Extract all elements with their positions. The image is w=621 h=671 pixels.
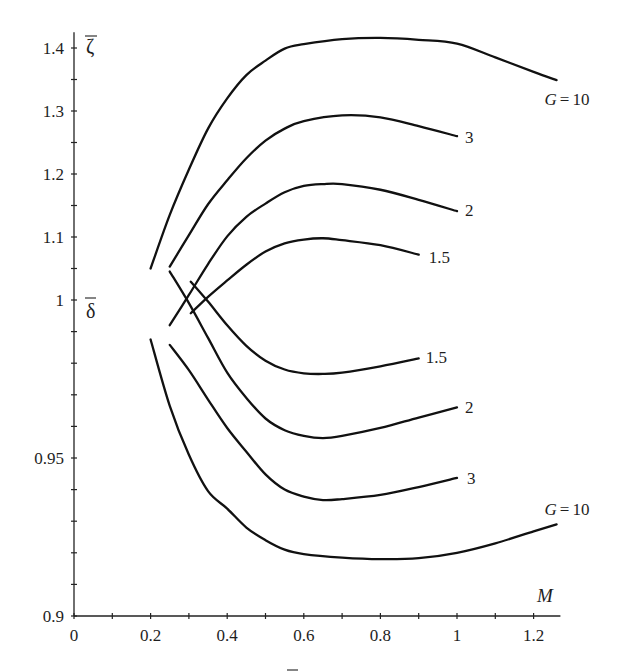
x-tick-label: 0.2 bbox=[140, 626, 161, 645]
y-zeta-tick-label: 1.4 bbox=[43, 39, 65, 58]
chart-figure: 00.20.40.60.811.21.11.21.31.410.950.9 G=… bbox=[0, 0, 621, 671]
label-value: 1.5 bbox=[429, 248, 450, 267]
curves bbox=[151, 38, 557, 559]
curve-delta-G3 bbox=[170, 345, 457, 500]
curve-label-zeta-G1.5: 1.5 bbox=[429, 248, 450, 267]
label-value: 3 bbox=[465, 128, 474, 147]
curve-zeta-G3 bbox=[170, 115, 457, 266]
y-delta-tick-label: 0.9 bbox=[43, 607, 64, 626]
label-value: 2 bbox=[465, 398, 474, 417]
label-value: 2 bbox=[465, 201, 474, 220]
x-tick-label: 0.6 bbox=[293, 626, 314, 645]
curve-label-zeta-G3: 3 bbox=[465, 128, 474, 147]
y-delta-tick-label: 0.95 bbox=[34, 449, 64, 468]
curve-label-delta-G1.5: 1.5 bbox=[426, 348, 447, 367]
curve-delta-G1.5 bbox=[191, 282, 419, 374]
x-tick-label: 1.2 bbox=[523, 626, 544, 645]
curve-zeta-G1.5 bbox=[191, 238, 419, 313]
curve-label-delta-G2: 2 bbox=[465, 398, 474, 417]
y-zeta-tick-label: 1.1 bbox=[43, 228, 64, 247]
label-value: 3 bbox=[467, 469, 476, 488]
x-axis-title: M bbox=[536, 585, 554, 606]
label-variable: G bbox=[545, 500, 557, 519]
curve-delta-G2 bbox=[170, 272, 457, 439]
curve-label-zeta-G2: 2 bbox=[465, 201, 474, 220]
curve-label-zeta-G10: G=10 bbox=[545, 90, 590, 109]
x-tick-label: 0 bbox=[70, 626, 79, 645]
y-axis-title-delta: δ bbox=[86, 300, 95, 322]
curve-labels: G=10321.51.523G=10 bbox=[426, 90, 590, 519]
curve-label-delta-G10: G=10 bbox=[545, 500, 590, 519]
label-relation: = bbox=[560, 500, 570, 519]
curve-zeta-G10 bbox=[151, 38, 557, 269]
label-value: 1.5 bbox=[426, 348, 447, 367]
x-tick-label: 0.8 bbox=[370, 626, 391, 645]
axis-titles: M ζ δ bbox=[85, 35, 554, 606]
axes bbox=[74, 32, 560, 616]
y-zeta-tick-label: 1.3 bbox=[43, 102, 64, 121]
curve-label-delta-G3: 3 bbox=[467, 469, 476, 488]
y-axis-title-zeta: ζ bbox=[86, 35, 94, 58]
label-variable: G bbox=[545, 90, 557, 109]
y-zeta-tick-label: 1.2 bbox=[43, 165, 64, 184]
line-chart: 00.20.40.60.811.21.11.21.31.410.950.9 G=… bbox=[0, 0, 621, 671]
y-delta-tick-label: 1 bbox=[56, 291, 65, 310]
label-value: 10 bbox=[572, 500, 589, 519]
label-relation: = bbox=[560, 90, 570, 109]
x-tick-label: 1 bbox=[453, 626, 462, 645]
x-tick-label: 0.4 bbox=[217, 626, 239, 645]
curve-delta-G10 bbox=[151, 340, 557, 560]
label-value: 10 bbox=[572, 90, 589, 109]
